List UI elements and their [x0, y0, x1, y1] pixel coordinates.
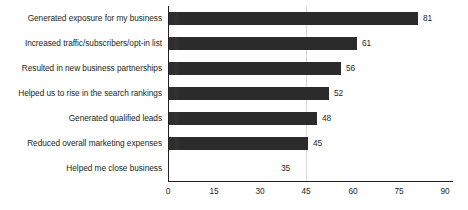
bar-value-label: 35 [281, 162, 290, 175]
category-label: Helped me close business [0, 156, 162, 181]
category-label: Resulted in new business partnerships [0, 56, 162, 81]
x-axis-line [168, 181, 453, 182]
bar-value-label: 61 [362, 37, 371, 50]
x-tick-label: 15 [202, 186, 226, 196]
bar-row: Generated exposure for my business 81 [0, 6, 468, 31]
x-tick-label: 75 [387, 186, 411, 196]
category-label: Generated exposure for my business [0, 6, 162, 31]
bar-row: Resulted in new business partnerships 56 [0, 56, 468, 81]
bar-value-label: 81 [423, 12, 432, 25]
bar-row: Helped me close business 35 [0, 156, 468, 181]
bar-row: Reduced overall marketing expenses 45 [0, 131, 468, 156]
x-tick-label: 30 [248, 186, 272, 196]
bar-value-label: 52 [334, 87, 343, 100]
category-label: Helped us to rise in the search rankings [0, 81, 162, 106]
bar-value-label: 56 [346, 62, 355, 75]
category-label: Generated qualified leads [0, 106, 162, 131]
category-label: Reduced overall marketing expenses [0, 131, 162, 156]
bar-value-label: 45 [313, 137, 322, 150]
bar [169, 12, 418, 25]
category-label: Increased traffic/subscribers/opt-in lis… [0, 31, 162, 56]
bar [169, 87, 329, 100]
x-tick-label: 60 [341, 186, 365, 196]
bar-row: Helped us to rise in the search rankings… [0, 81, 468, 106]
x-tick-label: 45 [294, 186, 318, 196]
x-tick-label: 90 [433, 186, 457, 196]
bar-chart: Generated exposure for my business 81 In… [0, 0, 468, 210]
bar [169, 62, 341, 75]
bar-row: Increased traffic/subscribers/opt-in lis… [0, 31, 468, 56]
bar [169, 137, 308, 150]
bar [169, 37, 357, 50]
bar-value-label: 48 [322, 112, 331, 125]
bar [169, 112, 317, 125]
x-tick-label: 0 [156, 186, 180, 196]
bar-row: Generated qualified leads 48 [0, 106, 468, 131]
